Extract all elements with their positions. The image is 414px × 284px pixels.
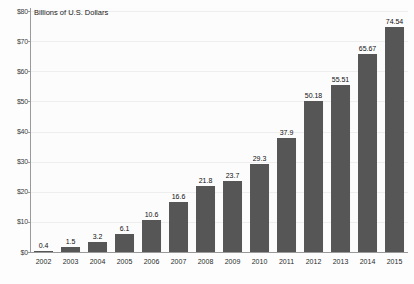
- x-tick-label: 2009: [225, 258, 241, 265]
- x-tick-label: 2005: [117, 258, 133, 265]
- x-tick-label: 2008: [198, 258, 214, 265]
- x-tick-label: 2013: [333, 258, 349, 265]
- x-axis: 2002200320042005200620072008200920102011…: [30, 0, 408, 284]
- bar-chart: $0$10$20$30$40$50$60$70$80 Billions of U…: [0, 0, 414, 284]
- y-tick-label: $0: [2, 249, 28, 256]
- x-tick-label: 2012: [306, 258, 322, 265]
- y-tick-label: $40: [2, 128, 28, 135]
- x-tick-label: 2003: [63, 258, 79, 265]
- x-tick-label: 2015: [387, 258, 403, 265]
- x-tick-label: 2004: [90, 258, 106, 265]
- y-tick-label: $80: [2, 8, 28, 15]
- y-tick-label: $50: [2, 98, 28, 105]
- y-axis: $0$10$20$30$40$50$60$70$80: [0, 0, 28, 284]
- y-tick-label: $30: [2, 158, 28, 165]
- x-tick-label: 2010: [252, 258, 268, 265]
- x-tick-label: 2014: [360, 258, 376, 265]
- x-tick-label: 2002: [36, 258, 52, 265]
- y-tick-label: $10: [2, 218, 28, 225]
- y-tick-label: $70: [2, 38, 28, 45]
- x-tick-label: 2011: [279, 258, 294, 265]
- x-tick-label: 2007: [171, 258, 187, 265]
- x-tick-label: 2006: [144, 258, 160, 265]
- y-tick-label: $60: [2, 68, 28, 75]
- y-tick-label: $20: [2, 188, 28, 195]
